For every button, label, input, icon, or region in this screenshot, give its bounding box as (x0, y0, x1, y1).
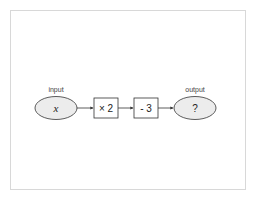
operation-label-subtract: - 3 (140, 103, 152, 114)
input-label: input (48, 86, 63, 94)
operation-node-multiply: × 2 (94, 98, 118, 118)
output-node: ? (174, 97, 216, 120)
operation-label-multiply: × 2 (99, 103, 114, 114)
output-value: ? (192, 103, 198, 114)
output-label: output (185, 86, 205, 94)
flow-diagram: input x × 2 - 3 output ? (0, 0, 256, 199)
input-node: x (35, 97, 77, 120)
operation-node-subtract: - 3 (134, 98, 158, 118)
input-value: x (53, 102, 59, 114)
